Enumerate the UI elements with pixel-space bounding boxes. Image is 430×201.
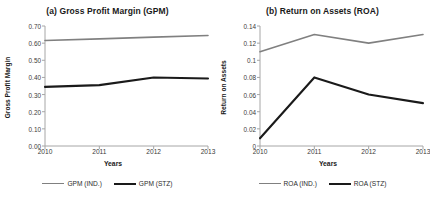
y-axis-ticks-roa: 0.140.120.10.080.060.040.020 (233, 26, 259, 146)
x-tick-label: 2012 (146, 148, 161, 155)
x-tick-label: 2010 (38, 148, 53, 155)
y-tick-label: 0.70 (29, 23, 41, 30)
plot-lines-roa (260, 26, 423, 146)
y-tick-label: 0.50 (29, 57, 41, 64)
y-tick-label: 0.1 (247, 57, 256, 64)
y-tick-label: 0.04 (244, 108, 256, 115)
series-lines-roa (260, 35, 423, 139)
x-tick-label: 2010 (253, 148, 268, 155)
y-axis-title-roa-text: Return on Assets (220, 60, 227, 114)
legend-roa: ROA (IND.)ROA (STZ) (215, 180, 430, 187)
legend-item[interactable]: ROA (IND.) (259, 180, 317, 187)
y-tick-label: 0.60 (29, 40, 41, 47)
x-axis-ticks-roa: 2010201120122013 (260, 148, 423, 160)
y-axis-title-gpm-text: Gross Profit Margin (5, 56, 12, 118)
y-axis-title-gpm: Gross Profit Margin (1, 28, 15, 146)
y-tick-label: 0.20 (29, 108, 41, 115)
x-axis-title-roa: Years (233, 160, 423, 167)
plot-lines-gpm (45, 26, 208, 146)
x-tick-label: 2013 (416, 148, 430, 155)
legend-item[interactable]: GPM (STZ) (114, 180, 173, 187)
y-tick-label: 0.08 (244, 74, 256, 81)
x-tick-label: 2011 (92, 148, 106, 155)
y-tick-label: 0.40 (29, 74, 41, 81)
y-tick-label: 0.12 (244, 40, 256, 47)
legend-label: GPM (IND.) (67, 180, 101, 187)
series-line-roa-stz (260, 77, 423, 138)
legend-gpm: GPM (IND.)GPM (STZ) (0, 180, 215, 187)
plot-area-gpm: 0.700.600.500.400.300.200.100.00 (18, 26, 208, 146)
y-axis-ticks-gpm: 0.700.600.500.400.300.200.100.00 (18, 26, 44, 146)
series-line-gpm-stz (45, 77, 208, 86)
legend-label: ROA (IND.) (284, 180, 317, 187)
series-line-roa-ind (260, 35, 423, 52)
legend-line-swatch (114, 183, 136, 185)
series-lines-gpm (45, 35, 208, 86)
panel-roa: (b) Return on Assets (ROA) Return on Ass… (215, 0, 430, 201)
legend-label: GPM (STZ) (139, 180, 173, 187)
series-line-gpm-ind (45, 35, 208, 40)
x-tick-label: 2013 (201, 148, 216, 155)
y-tick-label: 0.02 (244, 125, 256, 132)
y-tick-label: 0.10 (29, 125, 41, 132)
legend-label: ROA (STZ) (354, 180, 387, 187)
plot-area-roa: 0.140.120.10.080.060.040.020 (233, 26, 423, 146)
x-tick-label: 2011 (307, 148, 321, 155)
y-tick-label: 0.06 (244, 91, 256, 98)
legend-item[interactable]: ROA (STZ) (329, 180, 387, 187)
y-axis-title-roa: Return on Assets (216, 28, 230, 146)
panel-gpm: (a) Gross Profit Margin (GPM) Gross Prof… (0, 0, 215, 201)
legend-item[interactable]: GPM (IND.) (42, 180, 101, 187)
y-tick-label: 0.30 (29, 91, 41, 98)
legend-line-swatch (329, 183, 351, 185)
y-tick-label: 0.14 (244, 23, 256, 30)
x-axis-title-gpm: Years (18, 160, 208, 167)
legend-line-swatch (42, 183, 64, 184)
x-tick-label: 2012 (361, 148, 376, 155)
chart-svg-gpm (45, 26, 208, 146)
figure-two-panel-line-charts: (a) Gross Profit Margin (GPM) Gross Prof… (0, 0, 430, 201)
panel-title-roa: (b) Return on Assets (ROA) (215, 6, 430, 16)
panel-title-gpm: (a) Gross Profit Margin (GPM) (0, 6, 215, 16)
legend-line-swatch (259, 183, 281, 184)
x-axis-ticks-gpm: 2010201120122013 (45, 148, 208, 160)
chart-svg-roa (260, 26, 423, 146)
